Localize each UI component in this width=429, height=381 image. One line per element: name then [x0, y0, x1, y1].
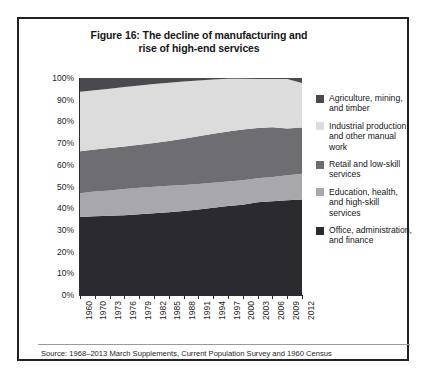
y-axis-tick-label: 90% [57, 95, 74, 105]
x-axis-tick-mark [258, 296, 259, 299]
legend-label: Office, administration, and finance [329, 225, 412, 246]
y-axis-tick-label: 30% [57, 225, 74, 235]
x-axis-tick-mark [287, 296, 288, 299]
x-axis-tick-mark [243, 296, 244, 299]
legend-label: Agriculture, mining, and timber [329, 93, 412, 114]
y-axis-tick-label: 40% [57, 203, 74, 213]
y-axis-tick-label: 80% [57, 116, 74, 126]
y-axis-tick-label: 20% [57, 247, 74, 257]
y-axis-tick-label: 100% [52, 73, 74, 83]
x-axis-tick-label: 2003 [261, 301, 271, 320]
legend-item: Education, health, and high-skill servic… [316, 187, 412, 218]
y-axis-tick-label: 60% [57, 160, 74, 170]
x-axis-tick-mark [213, 296, 214, 299]
x-axis-tick-label: 1976 [128, 301, 138, 320]
legend-item: Industrial production and other manual w… [316, 121, 412, 152]
source-divider [38, 344, 410, 345]
legend-item: Office, administration, and finance [316, 225, 412, 246]
stacked-area-chart [80, 78, 302, 295]
y-axis-tick-label: 50% [57, 182, 74, 192]
x-axis-tick-label: 1960 [84, 301, 94, 320]
y-axis: 0%10%20%30%40%50%60%70%80%90%100% [36, 78, 77, 295]
legend-swatch-icon [316, 122, 324, 130]
x-axis-tick-mark [110, 296, 111, 299]
legend-item: Agriculture, mining, and timber [316, 93, 412, 114]
x-axis-tick-mark [124, 296, 125, 299]
x-axis-tick-mark [154, 296, 155, 299]
figure-frame: Figure 16: The decline of manufacturing … [17, 17, 409, 361]
x-axis-tick-mark [184, 296, 185, 299]
legend-swatch-icon [316, 227, 324, 235]
x-axis-tick-mark [139, 296, 140, 299]
y-axis-tick-label: 10% [57, 268, 74, 278]
chart-legend: Agriculture, mining, and timberIndustria… [316, 93, 412, 253]
x-axis-tick-label: 1970 [98, 301, 108, 320]
legend-item: Retail and low-skill services [316, 159, 412, 180]
x-axis-tick-label: 1991 [202, 301, 212, 320]
x-axis-tick-mark [302, 296, 303, 299]
figure-title: Figure 16: The decline of manufacturing … [59, 29, 339, 55]
x-axis-tick-label: 1994 [217, 301, 227, 320]
x-axis: 1960197019731976197919821985198819911994… [80, 296, 302, 338]
x-axis-tick-mark [198, 296, 199, 299]
x-axis-tick-label: 1985 [172, 301, 182, 320]
x-axis-tick-label: 1979 [143, 301, 153, 320]
x-axis-tick-label: 1997 [232, 301, 242, 320]
source-note: Source: 1968–2013 March Supplements, Cur… [41, 349, 332, 358]
x-axis-tick-label: 2012 [306, 301, 316, 320]
legend-swatch-icon [316, 188, 324, 196]
x-axis-tick-label: 2000 [246, 301, 256, 320]
x-axis-tick-mark [80, 296, 81, 299]
legend-swatch-icon [316, 161, 324, 169]
legend-label: Retail and low-skill services [329, 159, 412, 180]
x-axis-tick-mark [272, 296, 273, 299]
y-axis-tick-label: 70% [57, 138, 74, 148]
legend-label: Education, health, and high-skill servic… [329, 187, 412, 218]
x-axis-tick-mark [169, 296, 170, 299]
x-axis-tick-label: 2006 [276, 301, 286, 320]
plot-area [80, 78, 302, 295]
figure-title-line-1: Figure 16: The decline of manufacturing … [91, 29, 308, 41]
stacked-area-svg [80, 78, 302, 295]
x-axis-tick-label: 1988 [187, 301, 197, 320]
legend-label: Industrial production and other manual w… [329, 121, 412, 152]
x-axis-tick-label: 2009 [291, 301, 301, 320]
x-axis-tick-mark [228, 296, 229, 299]
figure-title-line-2: rise of high-end services [138, 42, 259, 54]
x-axis-tick-mark [95, 296, 96, 299]
legend-swatch-icon [316, 95, 324, 103]
x-axis-tick-label: 1973 [113, 301, 123, 320]
y-axis-tick-label: 0% [62, 290, 74, 300]
x-axis-tick-label: 1982 [158, 301, 168, 320]
